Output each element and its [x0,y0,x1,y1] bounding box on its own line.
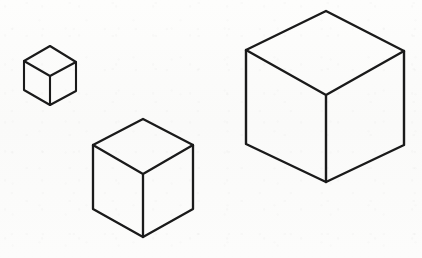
cube-medium-top-face [93,119,193,174]
cube-large[interactable] [246,11,404,182]
cube-medium[interactable] [93,119,193,237]
cubes-figure [0,0,422,258]
cube-small-inner-edges [24,61,76,105]
cube-large-inner-edges [246,50,404,182]
cube-small-top-face [24,46,76,76]
cube-small[interactable] [24,46,76,105]
cube-large-top-face [246,11,404,95]
cube-medium-inner-edges [93,145,193,237]
figure-canvas [0,0,422,258]
